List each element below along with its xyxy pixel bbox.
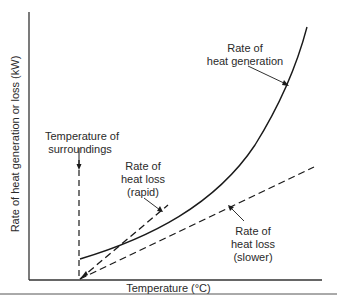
surroundings-annotation: Temperature of surroundings: [45, 130, 115, 156]
rapid-line-1: Rate of: [115, 160, 171, 173]
generation-line-2: heat generation: [205, 55, 285, 68]
rapid-leader-arrow-icon: [157, 206, 163, 212]
slower-line-1: Rate of: [225, 225, 281, 238]
rapid-line-2: heat loss: [115, 173, 171, 186]
surroundings-line-2: surroundings: [45, 143, 115, 156]
generation-leader: [248, 66, 286, 84]
slower-line-2: heat loss: [225, 238, 281, 251]
heat-loss-rapid-line: [80, 205, 168, 279]
surroundings-line-1: Temperature of: [45, 130, 115, 143]
rapid-annotation: Rate of heat loss (rapid): [115, 160, 171, 199]
rapid-leader: [144, 198, 160, 210]
slower-annotation: Rate of heat loss (slower): [225, 225, 281, 264]
slower-line-3: (slower): [225, 251, 281, 264]
slower-leader: [231, 208, 244, 221]
rapid-line-3: (rapid): [115, 186, 171, 199]
y-axis-label: Rate of heat generation or loss (kW): [9, 34, 21, 254]
generation-line-1: Rate of: [205, 42, 285, 55]
generation-annotation: Rate of heat generation: [205, 42, 285, 68]
surroundings-arrow-head-icon: [77, 164, 82, 170]
x-axis-label: Temperature (°C): [0, 282, 337, 294]
